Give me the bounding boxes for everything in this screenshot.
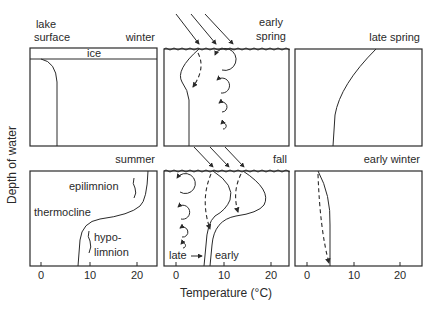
label-late: late	[169, 249, 187, 261]
convection-circle	[181, 243, 185, 248]
sunlight-arrow	[194, 147, 213, 167]
epilimnion-mixing-mark	[133, 178, 136, 198]
panel-early-spring: early spring	[164, 14, 289, 146]
convection-circle	[178, 205, 190, 219]
panel-late-spring: late spring	[295, 31, 422, 146]
x-tick-0: 0	[38, 269, 44, 281]
x-tick-20: 20	[394, 269, 406, 281]
panel-title-fall: fall	[273, 153, 287, 165]
fall-early-mixing-arrow	[236, 174, 241, 212]
early-winter-mixing-arrow	[318, 174, 329, 263]
panel-title-early-spring-1: early	[259, 16, 283, 28]
x-tick-0: 0	[304, 269, 310, 281]
x-tick-20: 20	[131, 269, 143, 281]
fall-late-mixing-arrow	[205, 174, 211, 229]
x-tick-0: 0	[173, 269, 179, 281]
label-limnion: limnion	[94, 246, 129, 258]
early-spring-mixing-arrow	[193, 53, 201, 87]
convection-circle	[177, 174, 195, 194]
label-hypo: hypo-	[94, 231, 122, 243]
label-epilimnion: epilimnion	[69, 180, 119, 192]
early-winter-temperature-profile	[318, 171, 330, 266]
x-tick-10: 10	[84, 269, 96, 281]
y-axis-label: Depth of water	[5, 126, 19, 204]
late-spring-temperature-profile	[333, 49, 376, 146]
lake-surface-label-line1: lake	[36, 18, 56, 30]
convection-circle	[221, 123, 226, 129]
x-tick-10: 10	[348, 269, 360, 281]
panel-title-early-winter: early winter	[364, 153, 421, 165]
label-early: early	[215, 249, 239, 261]
lake-surface-label-line2: surface	[34, 31, 70, 43]
convection-circle	[215, 48, 236, 70]
panel-winter: winter ice	[30, 31, 157, 146]
sunlight-arrow	[205, 14, 233, 44]
panel-summer: summer epilimnion thermocline hypo- limn…	[30, 153, 157, 281]
sunlight-arrow	[176, 14, 199, 44]
label-thermocline: thermocline	[34, 206, 91, 218]
x-tick-20: 20	[265, 269, 277, 281]
x-tick-10: 10	[218, 269, 230, 281]
lake-seasonal-temperature-diagram: Depth of water lake surface winter ice e…	[0, 0, 439, 309]
ice-label: ice	[87, 47, 101, 59]
panel-title-early-spring-2: spring	[256, 30, 286, 42]
convection-circle	[180, 227, 188, 237]
panel-title-summer: summer	[115, 153, 155, 165]
x-axis-label: Temperature (°C)	[180, 286, 272, 300]
sunlight-arrow	[225, 147, 244, 167]
panel-fall: fall late early 0 10 20 Temperature (°C)	[164, 147, 289, 300]
sunlight-arrow	[210, 147, 229, 167]
early-spring-temperature-profile	[180, 49, 199, 146]
convection-circle	[217, 78, 230, 93]
panel-early-winter: early winter 0 10 20	[295, 153, 422, 281]
panel-title-late-spring: late spring	[369, 31, 420, 43]
panel-title-winter: winter	[125, 31, 156, 43]
hypolimnion-mixing-mark	[88, 231, 91, 253]
winter-temperature-profile	[41, 59, 57, 146]
convection-circle	[219, 102, 227, 112]
sunlight-arrow	[191, 14, 216, 44]
